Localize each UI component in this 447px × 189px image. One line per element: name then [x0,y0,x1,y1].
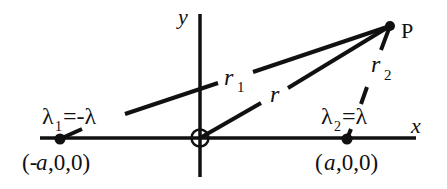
y-axis-label: y [176,4,188,29]
r1-segment-c [253,26,390,72]
r2-label: r [371,51,381,77]
r1-segment-b [125,83,218,114]
charge-right-subscript: 2 [334,119,341,134]
charge-left-coords-var: a [36,150,48,175]
charge-left-value: =-λ [63,103,97,129]
r2-segment-b [361,87,367,104]
r1-subscript: 1 [237,79,245,95]
r-segment-a [200,103,261,138]
charge-right-coords-open: ( [315,150,323,175]
charge-left-symbol: λ [42,103,54,129]
charge-right-value: =λ [342,103,368,129]
r2-subscript: 2 [384,67,392,83]
charge-right-symbol: λ [321,103,333,129]
charge-left-coords-rest: ,0,0) [48,150,90,175]
line-charge-diagram: y x P r 1 r r 2 λ 1 =-λ (- a ,0,0) λ 2 =… [0,0,447,189]
charge-right-coords-rest: ,0,0) [336,150,378,175]
charge-right-coords-var: a [324,150,336,175]
point-P-dot [385,21,395,31]
charge-left-dot [55,134,66,145]
r1-label: r [224,64,234,90]
r-label: r [270,81,280,107]
x-axis-label: x [410,113,421,138]
charge-right-dot [342,134,353,145]
charge-left-subscript: 1 [55,119,62,134]
point-P-label: P [401,18,413,43]
